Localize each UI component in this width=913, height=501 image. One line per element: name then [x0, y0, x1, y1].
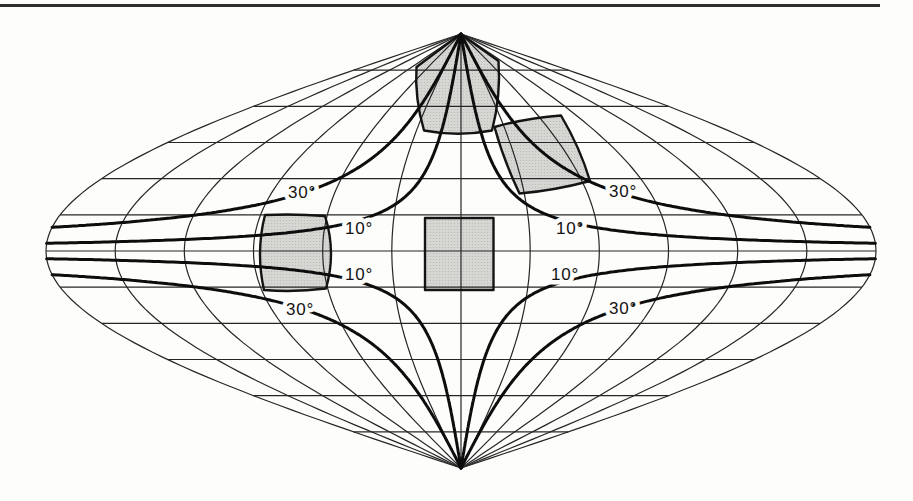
- isoline-label: 10°: [345, 219, 373, 238]
- isoline-label: 30°: [609, 182, 637, 201]
- isoline-label: 30°: [288, 183, 316, 202]
- isoline-label: 30°: [609, 299, 637, 318]
- page-top-rule: [0, 4, 880, 7]
- isoline-30deg: [461, 34, 870, 227]
- textbook-figure-page: 30°10°10°30°30°10°10°30°: [0, 0, 913, 501]
- isoline-30deg: [52, 275, 461, 468]
- graticule: [46, 34, 876, 468]
- isoline-30deg: [52, 34, 461, 227]
- isoline-label: 10°: [551, 265, 579, 284]
- isoline-30deg: [461, 275, 870, 468]
- isoline-label: 10°: [345, 265, 373, 284]
- midlatitude-northeast-sample-fill: [495, 116, 591, 194]
- equator-west-sample-fill: [260, 214, 331, 291]
- isoline-label: 10°: [556, 219, 584, 238]
- isoline-label: 30°: [286, 300, 314, 319]
- equator-central-sample-fill: [425, 218, 494, 290]
- sinusoidal-projection-figure: 30°10°10°30°30°10°10°30°: [0, 0, 913, 501]
